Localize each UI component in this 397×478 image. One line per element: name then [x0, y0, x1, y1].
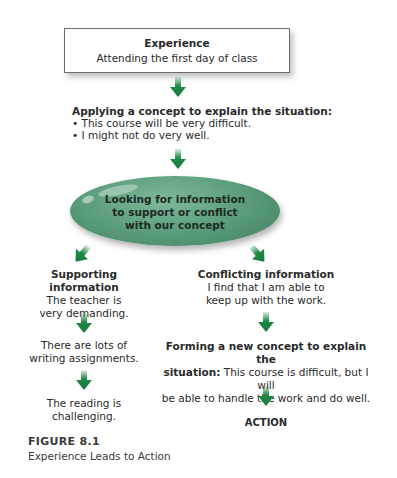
- conflicting-line: keep up with the work.: [186, 294, 346, 307]
- central-ellipse-node: Looking for information to support or co…: [70, 176, 280, 246]
- conflicting-line: I find that I am able to: [186, 281, 346, 294]
- supporting-item-line: writing assignments.: [18, 352, 150, 365]
- new-concept-text: This course is difficult, but I will: [220, 366, 368, 391]
- diagonal-arrow-right-icon: [245, 241, 270, 267]
- supporting-item-line: There are lots of: [18, 339, 150, 352]
- new-concept-heading-2: situation:: [164, 366, 221, 378]
- supporting-item-line: challenging.: [18, 410, 150, 423]
- down-arrow-icon: [170, 77, 186, 97]
- experience-text: Attending the first day of class: [65, 51, 289, 66]
- down-arrow-icon: [76, 313, 92, 333]
- diagonal-arrow-left-icon: [69, 241, 94, 267]
- applying-concept-block: Applying a concept to explain the situat…: [72, 105, 332, 141]
- applying-concept-bullet: • I might not do very well.: [72, 129, 332, 141]
- central-node-line: to support or conflict: [70, 206, 280, 219]
- applying-concept-heading: Applying a concept to explain the situat…: [72, 105, 332, 117]
- new-concept-heading: Forming a new concept to explain the: [166, 340, 367, 365]
- down-arrow-icon: [170, 149, 186, 169]
- down-arrow-icon: [258, 312, 274, 332]
- supporting-item-line: The teacher is: [18, 294, 150, 307]
- experience-box: Experience Attending the first day of cl…: [64, 28, 290, 73]
- supporting-heading: Supporting information: [18, 268, 150, 294]
- supporting-item: There are lots of writing assignments.: [18, 339, 150, 365]
- down-arrow-icon: [258, 386, 274, 406]
- applying-concept-bullet: • This course will be very difficult.: [72, 117, 332, 129]
- central-node-text: Looking for information to support or co…: [70, 193, 280, 232]
- figure-number: FIGURE 8.1: [28, 435, 100, 448]
- action-label: ACTION: [226, 416, 306, 429]
- central-node-line: with our concept: [70, 219, 280, 232]
- figure-title: Experience Leads to Action: [28, 450, 171, 462]
- conflicting-heading: Conflicting information: [186, 268, 346, 281]
- down-arrow-icon: [76, 370, 92, 390]
- central-node-line: Looking for information: [70, 193, 280, 206]
- supporting-item: The reading is challenging.: [18, 397, 150, 423]
- experience-title: Experience: [65, 36, 289, 51]
- conflicting-info-block: Conflicting information I find that I am…: [186, 268, 346, 307]
- supporting-item-line: The reading is: [18, 397, 150, 410]
